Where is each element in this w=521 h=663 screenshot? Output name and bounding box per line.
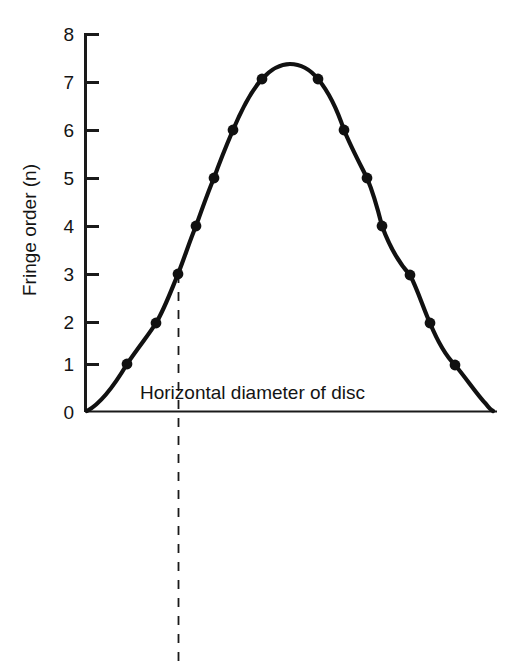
- data-point: [151, 318, 162, 329]
- figure-root: 8 7 6 5 4 3 2 1 0 Fringe order (n): [0, 0, 521, 663]
- horizontal-diameter-label: Horizontal diameter of disc: [140, 382, 365, 403]
- data-point: [313, 74, 324, 85]
- y-tick-label-1: 1: [63, 354, 74, 375]
- data-point: [405, 270, 416, 281]
- y-axis-title: Fringe order (n): [19, 164, 40, 296]
- data-point: [257, 74, 268, 85]
- data-point: [122, 359, 133, 370]
- data-point: [209, 173, 220, 184]
- y-tick-label-0: 0: [63, 402, 74, 423]
- data-point: [191, 221, 202, 232]
- data-point: [228, 125, 239, 136]
- y-tick-label-3: 3: [63, 264, 74, 285]
- data-point: [425, 318, 436, 329]
- y-tick-label-5: 5: [63, 168, 74, 189]
- y-tick-label-4: 4: [63, 216, 74, 237]
- plot-background: [0, 0, 521, 663]
- data-point: [450, 360, 461, 371]
- data-point: [339, 125, 350, 136]
- data-point: [173, 269, 184, 280]
- data-point: [377, 221, 388, 232]
- y-axis-tick-labels: 8 7 6 5 4 3 2 1 0: [63, 24, 74, 423]
- fringe-order-chart: 8 7 6 5 4 3 2 1 0 Fringe order (n): [0, 0, 521, 663]
- y-tick-label-7: 7: [63, 72, 74, 93]
- y-tick-label-2: 2: [63, 312, 74, 333]
- y-tick-label-8: 8: [63, 24, 74, 45]
- data-point: [362, 173, 373, 184]
- y-tick-label-6: 6: [63, 120, 74, 141]
